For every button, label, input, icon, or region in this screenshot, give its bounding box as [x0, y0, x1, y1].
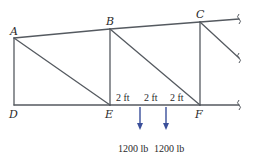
node-label-d: D	[8, 108, 18, 121]
node-label-a: A	[9, 25, 18, 38]
truss-diagram: A B C D E F 2 ft 2 ft 2 ft 1200 lb 1200 …	[0, 0, 254, 167]
arrowhead-down-icon	[163, 123, 169, 130]
node-label-b: B	[105, 15, 114, 28]
member-ae	[14, 38, 110, 105]
member-diagonal-continuation	[200, 22, 239, 58]
dimension-label-3: 2 ft	[170, 92, 184, 103]
node-label-c: C	[196, 8, 205, 21]
load-label-2: 1200 lb	[154, 143, 184, 154]
dimension-label-1: 2 ft	[116, 92, 130, 103]
arrowhead-down-icon	[137, 123, 143, 130]
break-symbol-diagonal-icon	[238, 53, 241, 63]
node-label-e: E	[104, 108, 113, 121]
member-top-continuation	[200, 19, 239, 22]
load-label-1: 1200 lb	[118, 143, 148, 154]
member-bc	[110, 22, 200, 29]
node-label-f: F	[194, 108, 203, 121]
dimension-label-2: 2 ft	[144, 92, 158, 103]
member-ab	[14, 29, 110, 38]
